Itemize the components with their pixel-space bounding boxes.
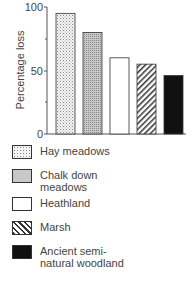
legend-swatch xyxy=(12,221,32,235)
bar-2 xyxy=(110,58,129,134)
legend-swatch xyxy=(12,145,32,159)
y-tick-0: 0 xyxy=(37,128,43,140)
legend-label: Heathland xyxy=(40,197,160,209)
legend-item: Heathland xyxy=(12,197,160,211)
y-tick-50: 50 xyxy=(31,65,43,77)
legend-swatch xyxy=(12,197,32,211)
bars xyxy=(56,13,183,134)
legend-item: Hay meadows xyxy=(12,145,160,159)
legend-swatch xyxy=(12,169,32,183)
legend-label: Marsh xyxy=(40,221,160,233)
bar-chart: 100 50 0 Percentage loss xyxy=(0,0,194,140)
y-axis-label: Percentage loss xyxy=(14,30,26,109)
bar-3 xyxy=(137,64,156,134)
legend-label: Ancient semi-natural woodland xyxy=(40,245,160,269)
legend-label: Hay meadows xyxy=(40,145,160,157)
bar-0 xyxy=(56,13,75,134)
bar-4 xyxy=(164,76,183,134)
legend-label: Chalk downmeadows xyxy=(40,169,160,193)
bar-1 xyxy=(83,32,102,134)
legend-item: Ancient semi-natural woodland xyxy=(12,245,160,269)
y-tick-100: 100 xyxy=(25,1,43,13)
legend-item: Marsh xyxy=(12,221,160,235)
legend-item: Chalk downmeadows xyxy=(12,169,160,193)
legend-swatch xyxy=(12,245,32,259)
